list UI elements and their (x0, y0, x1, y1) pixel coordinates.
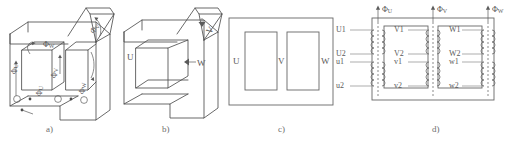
panel-c-limb-u: U (233, 56, 240, 66)
panel-d-drawing (350, 0, 512, 122)
panel-c-drawing (225, 0, 350, 122)
panel-b-isometric-limbs: U V W b) (122, 0, 232, 145)
panel-d-terminal-v2: v2 (394, 81, 402, 90)
panel-a-isometric-flux: ΦW ΦV ΦU ΦV ΦU ΦW a) (0, 0, 128, 145)
caption-b: b) (162, 124, 170, 134)
panel-c-limb-v: V (278, 56, 285, 66)
panel-d-terminal-W1: W1 (449, 25, 461, 34)
panel-a-drawing (0, 0, 128, 122)
panel-b-drawing (122, 0, 232, 122)
caption-d: d) (432, 124, 440, 134)
panel-d-flux-w: ΦW (492, 5, 504, 14)
panel-d-terminal-U1: U1 (336, 25, 346, 34)
panel-d-terminal-u2: u2 (336, 81, 344, 90)
panel-d-terminal-w1: w1 (449, 57, 459, 66)
panel-c-limb-w: W (321, 56, 330, 66)
panel-a-flux-u-left: ΦU (10, 64, 19, 74)
panel-a-flux-u-lower: ΦU (35, 86, 44, 96)
panel-a-flux-w-right: ΦW (78, 82, 87, 94)
panel-d-terminal-u1: u1 (336, 57, 344, 66)
panel-d-terminal-V1: V1 (394, 25, 404, 34)
panel-d-terminal-w2: w2 (449, 81, 459, 90)
caption-c: c) (278, 124, 285, 134)
panel-b-limb-w: W (197, 58, 206, 68)
panel-d-winding-schematic: ΦU ΦV ΦW U1 U2 u1 u2 V1 V2 v1 v2 W1 W2 w… (350, 0, 512, 145)
panel-d-terminal-v1: v1 (394, 57, 402, 66)
caption-a: a) (46, 124, 53, 134)
panel-c-planar-core: U V W c) (225, 0, 350, 145)
panel-d-flux-v: ΦV (437, 5, 447, 14)
panel-d-flux-u: ΦU (382, 5, 392, 14)
figure-three-phase-transformer: ΦW ΦV ΦU ΦV ΦU ΦW a) (0, 0, 512, 145)
panel-b-limb-u: U (127, 52, 134, 62)
panel-a-flux-w-top: ΦW (43, 40, 55, 49)
panel-a-flux-v-mid: ΦV (50, 68, 59, 78)
